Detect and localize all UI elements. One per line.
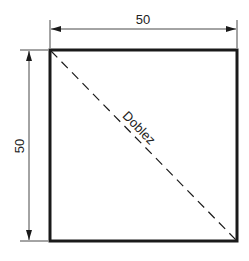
width-dimension-label: 50 [136, 12, 150, 27]
technical-drawing: 50 50 Doblez [0, 0, 249, 261]
fold-line [51, 51, 236, 240]
height-dimension-label: 50 [12, 139, 27, 153]
